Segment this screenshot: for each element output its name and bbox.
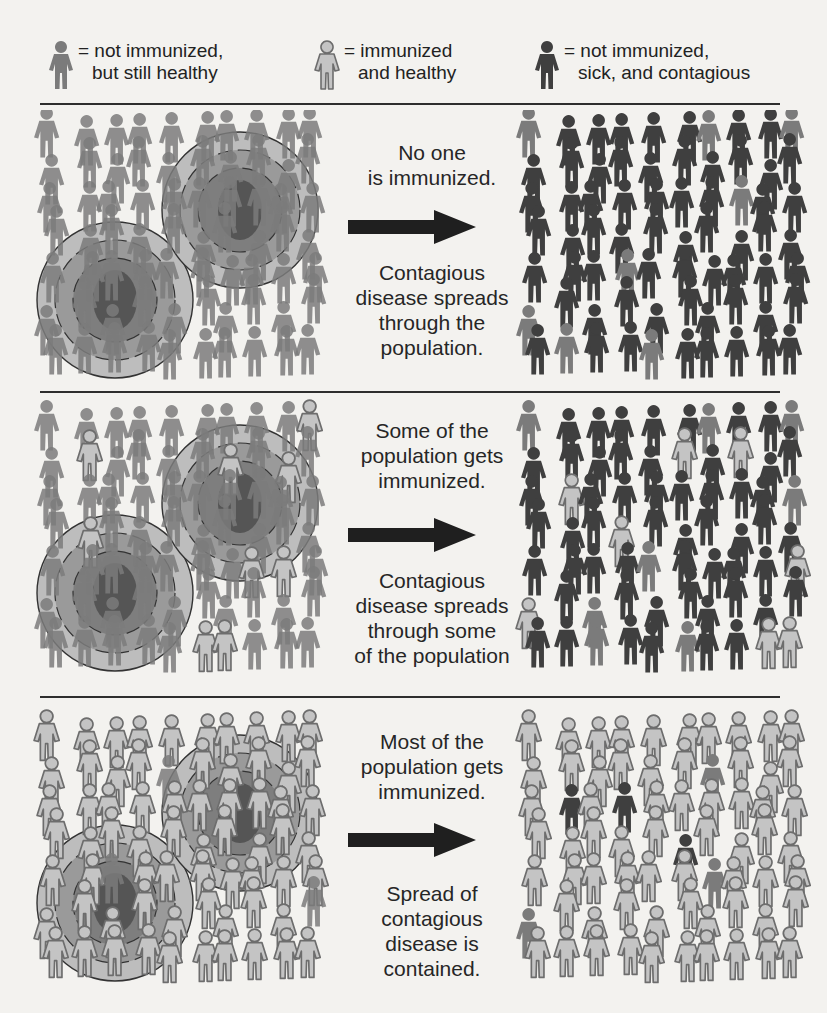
caption-line: of the population [332, 643, 532, 668]
person-sick-icon [729, 468, 754, 518]
person-sick-icon [612, 472, 637, 522]
population-before [30, 110, 330, 390]
caption-line: contained. [332, 956, 532, 981]
person-not-immunized-icon [554, 323, 579, 373]
caption-line: disease spreads [332, 593, 532, 618]
caption-line: Contagious [332, 568, 532, 593]
crowd-with-infection-circles [30, 703, 330, 1003]
population-after [512, 110, 812, 390]
caption-top: Most of the population gets immunized. [332, 729, 532, 804]
population-after [512, 398, 812, 688]
legend-item-immunized-healthy: = immunized and healthy [314, 40, 456, 90]
separator [40, 103, 780, 105]
caption-line: population. [332, 335, 532, 360]
person-sick-icon [581, 543, 606, 593]
person-not-immunized-icon [516, 400, 541, 450]
person-sick-icon [618, 614, 643, 664]
person-not-immunized-icon [782, 475, 807, 525]
legend-label: = not immunized, [564, 40, 750, 62]
caption-line: Contagious [332, 260, 532, 285]
caption-bottom: Spread of contagious disease is containe… [332, 881, 532, 981]
person-sick-icon [777, 426, 802, 476]
person-sick-icon [758, 401, 783, 451]
person-sick-icon [753, 546, 778, 596]
person-not-immunized-icon [48, 40, 74, 90]
person-not-immunized-icon [212, 327, 237, 377]
caption-line: Spread of [332, 881, 532, 906]
person-not-immunized-icon [729, 175, 754, 225]
legend-label: = not immunized, [78, 40, 223, 62]
person-immunized-icon [314, 40, 340, 90]
person-immunized-icon [618, 924, 643, 974]
person-sick-icon [522, 545, 547, 595]
caption-line: through some [332, 618, 532, 643]
person-not-immunized-icon [130, 179, 155, 229]
person-immunized-icon [758, 711, 783, 761]
person-sick-icon [554, 616, 579, 666]
scenario-row-most-immunized: Most of the population gets immunized. S… [0, 703, 827, 1008]
legend-label: = immunized [344, 40, 456, 62]
person-immunized-icon [212, 930, 237, 980]
person-not-immunized-icon [34, 400, 59, 450]
person-not-immunized-icon [295, 617, 320, 667]
population-before [30, 703, 330, 1003]
person-sick-icon [694, 327, 719, 377]
caption-line: population gets [332, 754, 532, 779]
person-immunized-icon [34, 710, 59, 760]
caption-line: disease spreads [332, 285, 532, 310]
person-immunized-icon [516, 710, 541, 760]
legend-item-not-immunized-healthy: = not immunized, but still healthy [48, 40, 223, 90]
person-immunized-icon [295, 927, 320, 977]
person-not-immunized-icon [516, 110, 541, 157]
legend-sublabel: and healthy [344, 62, 456, 84]
legend-item-sick-contagious: = not immunized, sick, and contagious [534, 40, 750, 90]
person-immunized-icon [782, 785, 807, 835]
legend-sublabel: sick, and contagious [564, 62, 750, 84]
person-sick-icon [612, 179, 637, 229]
caption-line: Most of the [332, 729, 532, 754]
caption-bottom: Contagious disease spreads through the p… [332, 260, 532, 360]
person-immunized-icon [636, 851, 661, 901]
caption-line: disease is [332, 931, 532, 956]
crowd-outcome [512, 110, 812, 390]
person-immunized-icon [729, 778, 754, 828]
person-immunized-icon [777, 927, 802, 977]
caption-top: No one is immunized. [332, 140, 532, 190]
person-immunized-icon [581, 853, 606, 903]
person-sick-icon [534, 40, 560, 90]
person-sick-icon [724, 619, 749, 669]
person-sick-icon [758, 110, 783, 158]
separator [40, 391, 780, 393]
scenario-row-some-immunized: Some of the population gets immunized. C… [0, 398, 827, 688]
person-not-immunized-icon [295, 324, 320, 374]
person-immunized-icon [694, 930, 719, 980]
person-sick-icon [636, 248, 661, 298]
arrow-right-icon [348, 518, 476, 552]
person-immunized-icon [522, 855, 547, 905]
caption-line: contagious [332, 906, 532, 931]
person-sick-icon [782, 182, 807, 232]
person-not-immunized-icon [130, 472, 155, 522]
arrow-right-icon [348, 823, 476, 857]
person-sick-icon [777, 133, 802, 183]
person-immunized-icon [753, 856, 778, 906]
caption-line: immunized. [332, 468, 532, 493]
caption-top: Some of the population gets immunized. [332, 418, 532, 493]
person-not-immunized-icon [34, 110, 59, 157]
person-immunized-icon [643, 806, 668, 856]
person-sick-icon [581, 250, 606, 300]
caption-line: through the [332, 310, 532, 335]
person-immunized-icon [614, 879, 639, 929]
caption-line: Some of the [332, 418, 532, 443]
crowd-outcome [512, 703, 812, 1003]
person-immunized-icon [777, 617, 802, 667]
person-not-immunized-icon [242, 619, 267, 669]
person-immunized-icon [724, 929, 749, 979]
person-sick-icon [777, 324, 802, 374]
crowd-with-infection-circles [30, 110, 330, 390]
crowd-outcome [512, 398, 812, 688]
person-sick-icon [753, 253, 778, 303]
person-sick-icon [694, 620, 719, 670]
person-sick-icon [614, 569, 639, 619]
person-immunized-icon [242, 929, 267, 979]
